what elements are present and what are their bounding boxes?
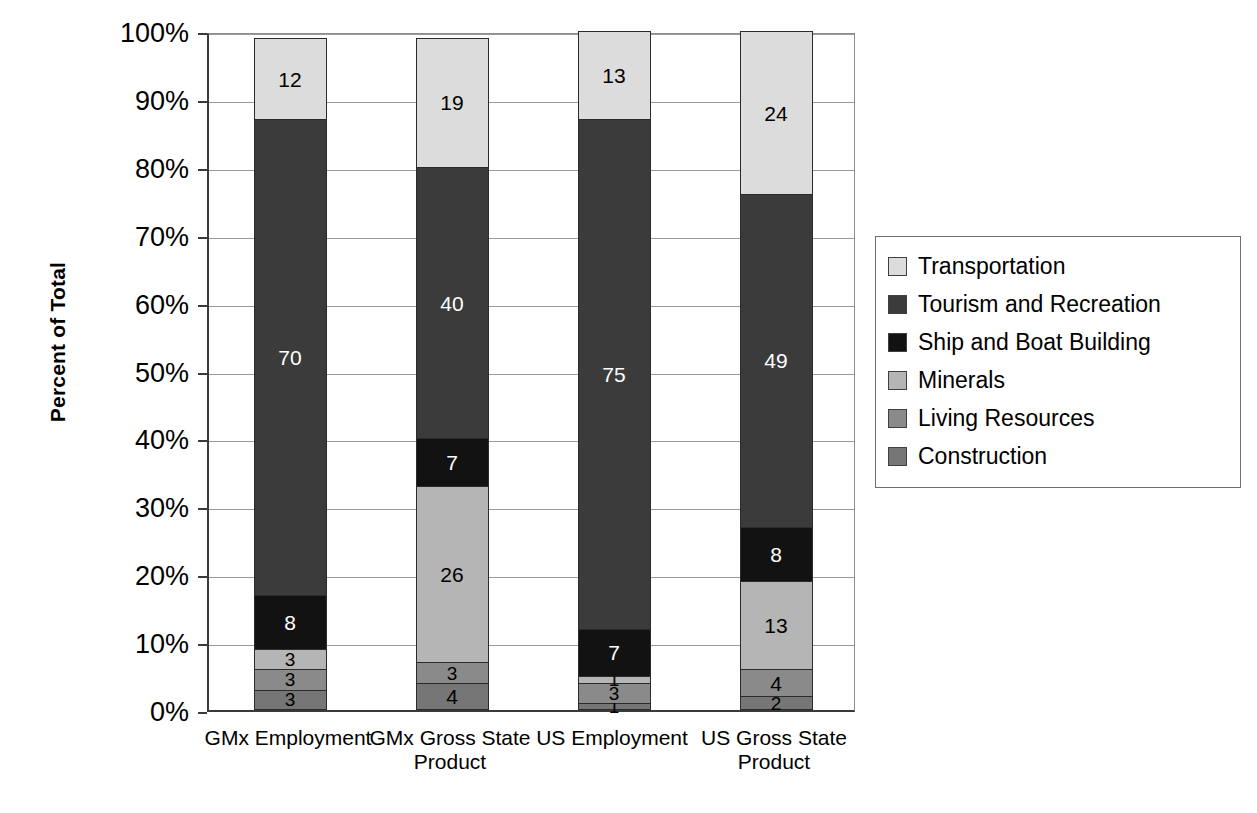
- bar-segment[interactable]: 24: [740, 31, 813, 194]
- y-tick-mark: [198, 644, 207, 646]
- legend-label: Ship and Boat Building: [918, 331, 1151, 354]
- legend-label: Transportation: [918, 255, 1065, 278]
- x-category-label: US Gross State Product: [679, 726, 869, 774]
- stacked-bar-chart: Percent of Total 33387012432674019131775…: [0, 0, 1257, 813]
- bar-segment[interactable]: 75: [578, 119, 651, 628]
- bar-segment[interactable]: 26: [416, 486, 489, 663]
- bar-segment-value: 26: [440, 564, 463, 585]
- y-tick-mark: [198, 101, 207, 103]
- bar-segment[interactable]: 70: [254, 119, 327, 594]
- y-tick-label: 50%: [49, 359, 189, 386]
- y-tick-label: 0%: [49, 699, 189, 726]
- bar-segment-value: 7: [608, 642, 620, 663]
- legend-swatch-icon: [888, 257, 907, 276]
- legend-swatch-icon: [888, 371, 907, 390]
- bar-segment-value: 3: [609, 684, 620, 703]
- y-tick-mark: [198, 169, 207, 171]
- legend-label: Minerals: [918, 369, 1005, 392]
- legend-item[interactable]: Minerals: [888, 361, 1228, 399]
- bar-segment-value: 2: [771, 694, 782, 713]
- legend-label: Tourism and Recreation: [918, 293, 1161, 316]
- legend-swatch-icon: [888, 333, 907, 352]
- bar-4[interactable]: 241384924: [740, 31, 813, 710]
- bar-segment-value: 3: [285, 670, 296, 689]
- legend-item[interactable]: Transportation: [888, 247, 1228, 285]
- bar-segment-value: 7: [446, 452, 458, 473]
- bar-segment[interactable]: 3: [254, 649, 327, 669]
- bar-segment-value: 13: [602, 65, 625, 86]
- bar-segment-value: 24: [764, 103, 787, 124]
- bar-segment-value: 70: [278, 347, 301, 368]
- bar-segment-value: 3: [285, 650, 296, 669]
- legend-item[interactable]: Construction: [888, 437, 1228, 475]
- y-tick-label: 80%: [49, 155, 189, 182]
- bar-segment[interactable]: 4: [740, 669, 813, 696]
- y-tick-mark: [198, 305, 207, 307]
- bar-segment[interactable]: 8: [254, 595, 327, 649]
- bar-segment[interactable]: 1: [578, 703, 651, 710]
- bar-segment[interactable]: 19: [416, 38, 489, 167]
- y-tick-label: 100%: [49, 20, 189, 47]
- y-tick-label: 20%: [49, 563, 189, 590]
- y-tick-mark: [198, 373, 207, 375]
- bar-segment-value: 3: [447, 664, 458, 683]
- y-tick-mark: [198, 508, 207, 510]
- bar-segment[interactable]: 3: [578, 683, 651, 703]
- bar-segment-value: 40: [440, 293, 463, 314]
- bar-segment-value: 4: [770, 673, 782, 694]
- bar-segment[interactable]: 40: [416, 167, 489, 439]
- y-tick-mark: [198, 440, 207, 442]
- y-tick-label: 40%: [49, 427, 189, 454]
- legend-label: Construction: [918, 445, 1047, 468]
- legend-swatch-icon: [888, 295, 907, 314]
- bar-segment[interactable]: 1: [578, 676, 651, 683]
- legend-item[interactable]: Living Resources: [888, 399, 1228, 437]
- y-tick-mark: [198, 33, 207, 35]
- bar-segment[interactable]: 7: [578, 629, 651, 677]
- bar-segment[interactable]: 3: [416, 662, 489, 682]
- y-tick-label: 70%: [49, 223, 189, 250]
- bar-segment[interactable]: 12: [254, 38, 327, 119]
- bar-segment-value: 19: [440, 92, 463, 113]
- bar-segment[interactable]: 4: [416, 683, 489, 710]
- bar-segment[interactable]: 3: [254, 690, 327, 710]
- bar-segment-value: 13: [764, 615, 787, 636]
- bar-segment[interactable]: 49: [740, 194, 813, 527]
- bar-segment-value: 3: [285, 690, 296, 709]
- legend-item[interactable]: Tourism and Recreation: [888, 285, 1228, 323]
- y-tick-label: 10%: [49, 631, 189, 658]
- bar-segment-value: 75: [602, 364, 625, 385]
- y-tick-mark: [198, 576, 207, 578]
- plot-area: 3338701243267401913177513241384924: [207, 33, 855, 712]
- y-tick-mark: [198, 237, 207, 239]
- bar-segment[interactable]: 13: [740, 581, 813, 669]
- bar-segment[interactable]: 7: [416, 438, 489, 486]
- legend-swatch-icon: [888, 409, 907, 428]
- bar-segment-value: 12: [278, 69, 301, 90]
- y-tick-label: 90%: [49, 87, 189, 114]
- bar-segment[interactable]: 2: [740, 696, 813, 710]
- y-tick-mark: [198, 712, 207, 714]
- bar-segment[interactable]: 8: [740, 527, 813, 581]
- bar-segment-value: 8: [770, 544, 782, 565]
- bar-3[interactable]: 13177513: [578, 31, 651, 710]
- legend-swatch-icon: [888, 447, 907, 466]
- legend: TransportationTourism and RecreationShip…: [875, 236, 1241, 488]
- y-tick-label: 30%: [49, 495, 189, 522]
- y-tick-label: 60%: [49, 291, 189, 318]
- bar-2[interactable]: 432674019: [416, 38, 489, 710]
- bar-segment[interactable]: 3: [254, 669, 327, 689]
- bar-segment-value: 49: [764, 350, 787, 371]
- legend-item[interactable]: Ship and Boat Building: [888, 323, 1228, 361]
- bar-segment-value: 8: [284, 612, 296, 633]
- bar-segment[interactable]: 13: [578, 31, 651, 119]
- bar-1[interactable]: 33387012: [254, 38, 327, 710]
- legend-label: Living Resources: [918, 407, 1094, 430]
- bar-segment-value: 4: [446, 686, 458, 707]
